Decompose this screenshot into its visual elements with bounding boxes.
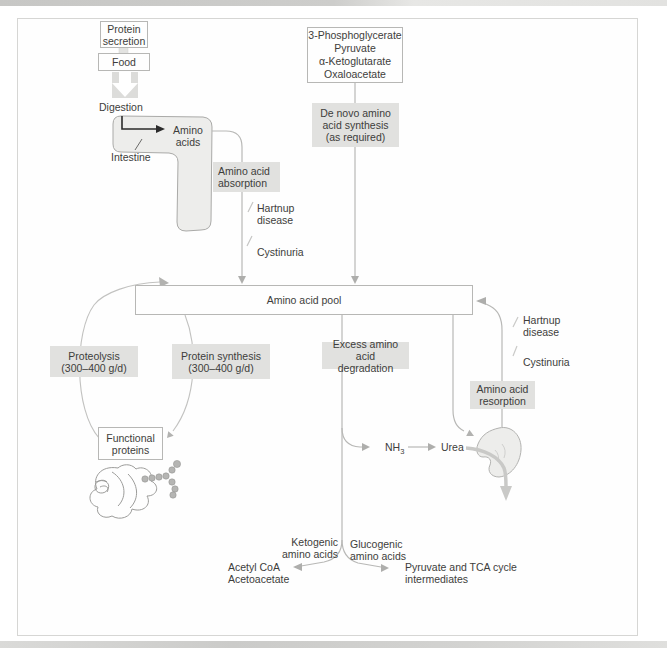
resorption-arrowhead-icon — [476, 297, 486, 305]
de-novo-arrowhead-icon — [351, 276, 359, 284]
precursor-line2: Pyruvate — [334, 42, 375, 55]
functional-proteins-line1: Functional — [106, 432, 154, 444]
absorption-line — [212, 131, 242, 276]
filtration-arrowhead-icon — [466, 430, 474, 436]
de-novo-line1: De novo amino — [320, 107, 391, 119]
metabolism-diagram: Protein secretion Food 3-Phosphoglycerat… — [0, 0, 667, 648]
absorption-line1: Amino acid — [218, 165, 270, 177]
proteolysis-chip: Proteolysis (300–400 g/d) — [50, 346, 138, 377]
protein-structure-drawing — [90, 460, 181, 518]
nh3-label: NH3 — [385, 441, 404, 458]
precursor-line4: Oxaloacetate — [324, 68, 386, 81]
resorption-line2: resorption — [479, 395, 526, 407]
protein-synthesis-chip: Protein synthesis (300–400 g/d) — [172, 344, 270, 379]
functional-proteins-line2: proteins — [112, 444, 149, 456]
absorption-arrowhead-icon — [238, 276, 246, 284]
excess-degradation-line1: Excess amino acid — [322, 338, 409, 362]
protein-secretion-line2: secretion — [103, 35, 146, 47]
food-label: Food — [112, 56, 136, 68]
ketogenic-arrowhead-icon — [293, 563, 302, 571]
amino-acid-pool-box: Amino acid pool — [135, 285, 473, 315]
protein-secretion-box: Protein secretion — [100, 21, 148, 48]
proteolysis-line2: (300–400 g/d) — [61, 362, 126, 374]
protein-secretion-line1: Protein — [107, 23, 140, 35]
de-novo-line2: acid synthesis — [323, 119, 389, 131]
synthesis-arrowhead-icon — [167, 431, 174, 438]
urea-label: Urea — [441, 441, 464, 453]
excess-degradation-chip: Excess amino acid degradation — [322, 342, 409, 369]
ketogenic-label: Ketogenicamino acids — [278, 536, 338, 560]
precursor-line3: α-Ketoglutarate — [319, 55, 391, 68]
urine-arrowhead-icon — [500, 486, 512, 501]
amino-acid-pool-label: Amino acid pool — [267, 294, 342, 306]
transport-block-ticks-left — [247, 202, 253, 246]
protein-synthesis-line1: Protein synthesis — [181, 350, 261, 362]
protein-synthesis-line2: (300–400 g/d) — [188, 362, 253, 374]
cystinuria-left-label: Cystinuria — [257, 246, 304, 258]
absorption-line2: absorption — [218, 177, 267, 189]
nh3-arrowhead-icon — [362, 443, 370, 451]
glucogenic-arrowhead-icon — [381, 564, 389, 572]
hartnup-disease-right-label: Hartnupdisease — [523, 314, 560, 338]
amino-acid-absorption-chip: Amino acid absorption — [213, 162, 280, 192]
hartnup-disease-left-label: Hartnupdisease — [257, 202, 294, 226]
resorption-line1: Amino acid — [477, 383, 529, 395]
intestine-label: Intestine — [111, 151, 151, 163]
amino-acids-label: Aminoacids — [168, 124, 208, 148]
precursors-box: 3-Phosphoglycerate Pyruvate α-Ketoglutar… — [307, 27, 403, 83]
digestion-label: Digestion — [99, 101, 143, 113]
food-digestion-block-arrow-icon — [112, 72, 138, 98]
transport-block-ticks-right — [513, 317, 518, 356]
functional-proteins-box: Functional proteins — [98, 427, 163, 460]
urea-arrowhead-icon — [428, 443, 436, 451]
pyruvate-tca-label: Pyruvate and TCA cycleintermediates — [405, 561, 517, 585]
de-novo-synthesis-chip: De novo amino acid synthesis (as require… — [312, 103, 399, 147]
glucogenic-label: Glucogenicamino acids — [350, 538, 406, 562]
nh3-branch-line — [342, 428, 362, 447]
precursor-line1: 3-Phosphoglycerate — [308, 29, 401, 42]
food-box: Food — [98, 53, 150, 71]
amino-acid-resorption-chip: Amino acid resorption — [470, 381, 535, 409]
cystinuria-right-label: Cystinuria — [523, 356, 570, 368]
filtration-line — [453, 315, 464, 431]
de-novo-line3: (as required) — [326, 131, 386, 143]
acetyl-coa-label: Acetyl CoAAcetoacetate — [228, 561, 289, 585]
proteolysis-line1: Proteolysis — [68, 350, 119, 362]
excess-degradation-line2: degradation — [338, 362, 393, 374]
